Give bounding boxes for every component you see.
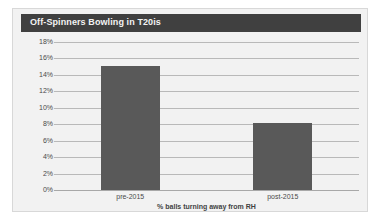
y-axis-tick-label: 6% <box>27 137 53 145</box>
screenshot-root: Off-Spinners Bowling in T20is 18% 16% 14… <box>0 0 390 223</box>
y-axis-tick-label: 0% <box>27 186 53 194</box>
x-axis-tick-label: post-2015 <box>207 193 360 200</box>
y-axis-tick-label: 14% <box>27 71 53 79</box>
y-axis-tick-label: 2% <box>27 170 53 178</box>
chart-container: Off-Spinners Bowling in T20is 18% 16% 14… <box>12 8 368 212</box>
bar[interactable] <box>253 123 312 190</box>
x-axis-tick-label: pre-2015 <box>54 193 207 200</box>
y-axis-tick-label: 8% <box>27 120 53 128</box>
plot-area <box>54 42 359 190</box>
y-axis-tick-label: 16% <box>27 54 53 62</box>
bar-series <box>54 42 359 190</box>
y-axis-tick-label: 10% <box>27 104 53 112</box>
y-axis-tick-labels: 18% 16% 14% 12% 10% 8% 6% 4% 2% 0% <box>27 42 53 190</box>
chart-title-band: Off-Spinners Bowling in T20is <box>21 14 361 32</box>
chart-title: Off-Spinners Bowling in T20is <box>30 17 161 27</box>
y-axis-tick-label: 18% <box>27 38 53 46</box>
x-axis-title: % balls turning away from RH <box>54 203 359 210</box>
y-axis-tick-label: 4% <box>27 153 53 161</box>
bar[interactable] <box>101 66 160 190</box>
gridline <box>54 190 359 191</box>
y-axis-tick-label: 12% <box>27 87 53 95</box>
